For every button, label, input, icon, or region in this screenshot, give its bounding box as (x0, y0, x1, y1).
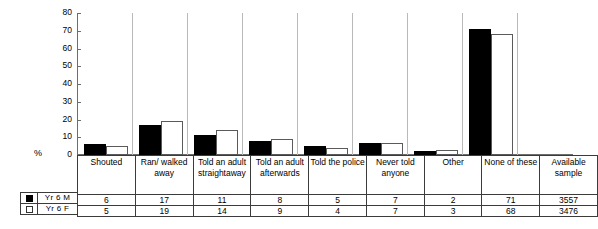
table-cell: 7 (367, 195, 425, 206)
table-cell: 68 (482, 206, 540, 217)
bar-series-male (139, 125, 161, 155)
bar-series-male (304, 146, 326, 155)
bar-series-female (161, 121, 183, 155)
table-column-header: Told the police (309, 156, 367, 195)
bar-series-female (106, 146, 128, 155)
bar-series-male (249, 141, 271, 155)
table-row: 617118572713557 (78, 195, 598, 206)
y-axis-tick-label: 60 (50, 44, 72, 53)
bar-group (463, 13, 518, 155)
table-cell: 9 (251, 206, 309, 217)
table-column-header: Available sample (540, 156, 598, 195)
table-column-header: Told an adult afterwards (251, 156, 309, 195)
table-row: 519149473683476 (78, 206, 598, 217)
table-cell: 5 (309, 195, 367, 206)
table-cell: 3557 (540, 195, 598, 206)
filled-square-icon (26, 195, 33, 202)
bar-series-female (326, 148, 348, 155)
legend-label: Yr 6 M (38, 193, 78, 204)
y-axis-tick-label: 80 (50, 8, 72, 17)
bar-series-male (469, 29, 491, 155)
table-cell: 14 (193, 206, 251, 217)
bar-series-male (359, 143, 381, 155)
legend-row: Yr 6 M (21, 193, 78, 204)
bar-group (408, 13, 463, 155)
legend-row: Yr 6 F (21, 204, 78, 215)
table-cell: 7 (367, 206, 425, 217)
plot-area (78, 13, 572, 155)
table-cell: 8 (251, 195, 309, 206)
data-table: ShoutedRan/ walked awayTold an adult str… (77, 155, 598, 217)
legend-label: Yr 6 F (38, 204, 78, 215)
y-axis-tick-label: 50 (50, 61, 72, 70)
bar-group (298, 13, 353, 155)
table-cell: 2 (424, 195, 482, 206)
table-cell: 3 (424, 206, 482, 217)
table-header-row: ShoutedRan/ walked awayTold an adult str… (78, 156, 598, 195)
table-column-header: Other (424, 156, 482, 195)
table-cell: 19 (135, 206, 193, 217)
bar-series-female (216, 130, 238, 155)
table-cell: 6 (78, 195, 136, 206)
table-column-header: Shouted (78, 156, 136, 195)
bar-group (133, 13, 188, 155)
table-column-header: Never told anyone (367, 156, 425, 195)
y-axis-tick-label: 40 (50, 79, 72, 88)
table-cell: 11 (193, 195, 251, 206)
legend-swatch-cell (21, 204, 38, 215)
y-axis-tick-label: 10 (50, 132, 72, 141)
category-separator (517, 13, 518, 155)
bar-series-female (491, 34, 513, 155)
legend-swatch-cell (21, 193, 38, 204)
bar-series-female (271, 139, 293, 155)
bar-group (78, 13, 133, 155)
bar-series-male (194, 135, 216, 155)
y-axis-tick-label: 30 (50, 97, 72, 106)
table-cell: 3476 (540, 206, 598, 217)
bar-chart-figure: % 80706050403020100 Yr 6 MYr 6 F Shouted… (0, 0, 598, 229)
table-cell: 4 (309, 206, 367, 217)
bar-group (243, 13, 298, 155)
y-axis-tick-label: 20 (50, 115, 72, 124)
bar-group (353, 13, 408, 155)
table-column-header: Ran/ walked away (135, 156, 193, 195)
table-column-header: None of these (482, 156, 540, 195)
y-axis-tick-label: 70 (50, 26, 72, 35)
bar-series-female (381, 143, 403, 155)
table-cell: 5 (78, 206, 136, 217)
y-axis-label: % (30, 148, 46, 158)
bar-group (188, 13, 243, 155)
table-cell: 17 (135, 195, 193, 206)
table-column-header: Told an adult straightaway (193, 156, 251, 195)
bar-series-male (84, 144, 106, 155)
chart-legend: Yr 6 MYr 6 F (20, 192, 78, 215)
open-square-icon (26, 206, 33, 213)
y-axis-tick-label: 0 (50, 150, 72, 159)
table-cell: 71 (482, 195, 540, 206)
